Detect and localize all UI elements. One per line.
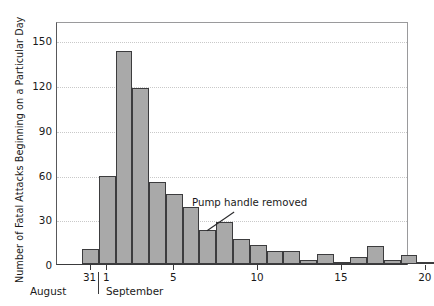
bar bbox=[199, 230, 216, 264]
x-axis-tick-label: 10 bbox=[251, 272, 264, 282]
x-axis-tick-label: 31 bbox=[83, 272, 96, 282]
bar bbox=[132, 88, 149, 264]
bar bbox=[417, 262, 434, 264]
x-axis-tick-mark bbox=[257, 265, 258, 270]
bar bbox=[166, 194, 183, 264]
y-axis-tick-label: 30 bbox=[22, 215, 52, 225]
bar bbox=[401, 255, 418, 264]
x-axis-tick-label: 5 bbox=[170, 272, 177, 282]
x-axis-tick-mark bbox=[425, 265, 426, 270]
x-axis-tick-mark bbox=[173, 265, 174, 270]
y-axis-tick-label: 60 bbox=[22, 171, 52, 181]
y-axis-tick-label: 120 bbox=[22, 81, 52, 91]
bar bbox=[82, 249, 99, 264]
y-axis-tick-label: 150 bbox=[22, 36, 52, 46]
x-axis-tick-label: 1 bbox=[103, 272, 110, 282]
plot-area bbox=[56, 22, 408, 265]
y-axis-tick-label: 90 bbox=[22, 126, 52, 136]
y-axis-title-container: Number of Fatal Attacks Beginning on a P… bbox=[0, 0, 20, 306]
bar bbox=[216, 222, 233, 264]
annotation-pump-handle-removed: Pump handle removed bbox=[192, 198, 307, 208]
bar bbox=[183, 207, 200, 264]
bar bbox=[99, 176, 116, 264]
bar bbox=[367, 246, 384, 264]
x-axis-tick-mark bbox=[106, 265, 107, 270]
x-axis-tick-mark bbox=[341, 265, 342, 270]
bar bbox=[334, 262, 351, 264]
x-axis-tick-mark bbox=[90, 265, 91, 270]
x-axis-tick-label: 15 bbox=[334, 272, 347, 282]
bar bbox=[233, 239, 250, 264]
bar-series bbox=[57, 23, 407, 264]
month-label-september: September bbox=[106, 286, 163, 296]
bar bbox=[250, 245, 267, 264]
bar bbox=[384, 260, 401, 264]
y-axis-tick-labels: 0306090120150 bbox=[18, 22, 52, 265]
month-label-august: August bbox=[30, 286, 66, 296]
x-axis-tick-label: 20 bbox=[418, 272, 431, 282]
bar bbox=[116, 51, 133, 264]
bar bbox=[267, 251, 284, 264]
bar bbox=[300, 260, 317, 264]
bar bbox=[317, 254, 334, 264]
bar bbox=[149, 182, 166, 264]
bar bbox=[350, 257, 367, 264]
y-axis-tick-label: 0 bbox=[22, 260, 52, 270]
month-divider bbox=[98, 272, 99, 294]
bar bbox=[283, 251, 300, 264]
